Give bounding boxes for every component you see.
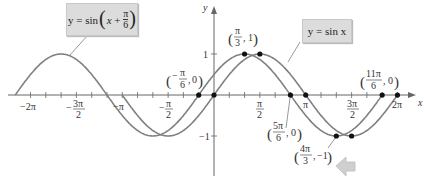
tick-label-pi: π <box>303 99 308 110</box>
point-label-pi-3: ( π 3 , 1 ) <box>228 25 258 48</box>
tick-label-neg-pi-2: − π 2 <box>159 98 173 120</box>
point-label-11pi-6: ( 11π 6 , 0 ) <box>360 68 399 91</box>
svg-text:3: 3 <box>235 37 240 48</box>
svg-text:): ) <box>327 149 332 166</box>
point-dot <box>257 51 262 56</box>
svg-text:0: 0 <box>291 127 296 138</box>
svg-text:4π: 4π <box>300 143 310 154</box>
svg-text:2: 2 <box>166 109 171 120</box>
svg-text:,: , <box>188 74 191 85</box>
tick-label-pi-2: π 2 <box>256 98 264 120</box>
svg-text:−: − <box>172 70 178 81</box>
tick-label-y-neg1: −1 <box>199 131 210 142</box>
svg-text:π: π <box>180 67 185 78</box>
svg-text:2: 2 <box>257 109 262 120</box>
svg-text:2: 2 <box>76 109 81 120</box>
svg-text:6: 6 <box>180 79 185 90</box>
point-dot <box>196 92 201 97</box>
point-dot <box>380 92 385 97</box>
point-dot <box>288 92 293 97</box>
svg-text:,: , <box>313 150 316 161</box>
point-dot <box>334 133 339 138</box>
svg-text:0: 0 <box>192 74 197 85</box>
svg-text:−: − <box>66 102 72 113</box>
point-dot <box>211 92 216 97</box>
y-axis-label: y <box>202 2 208 13</box>
leader-4pi3 <box>328 137 336 148</box>
svg-text:0: 0 <box>388 75 393 86</box>
svg-text:5π: 5π <box>273 120 283 131</box>
callout-sin-x: y = sin x <box>302 19 352 43</box>
svg-text:3: 3 <box>303 155 308 166</box>
tick-label-neg-2pi: −2π <box>20 101 36 112</box>
point-label-neg-pi-6: ( − π 6 , 0 ) <box>166 67 203 90</box>
svg-text:): ) <box>394 74 399 91</box>
sine-graph: x y −2π − 3π 2 −π − π 2 π 2 π 3π 2 2π 1 … <box>0 0 424 183</box>
svg-text:π: π <box>257 98 262 109</box>
tick-label-neg-3pi-2: − 3π 2 <box>66 98 85 120</box>
x-axis-label: x <box>417 97 423 108</box>
svg-text:(: ( <box>294 149 299 166</box>
svg-text:11π: 11π <box>366 68 381 79</box>
svg-text:): ) <box>297 126 302 143</box>
point-dot <box>242 51 247 56</box>
tick-label-neg-pi: −π <box>113 101 124 112</box>
svg-text:): ) <box>253 31 258 48</box>
svg-text:π: π <box>166 98 171 109</box>
svg-text:3π: 3π <box>73 98 83 109</box>
callout-leader-sin <box>288 42 300 62</box>
svg-text:): ) <box>198 73 203 90</box>
point-label-4pi-3: ( 4π 3 , −1 ) <box>294 143 332 166</box>
svg-text:,: , <box>383 75 386 86</box>
svg-text:,: , <box>243 32 246 43</box>
callout-leader-shifted <box>70 35 88 55</box>
svg-text:π: π <box>235 25 240 36</box>
svg-text:6: 6 <box>276 132 281 143</box>
svg-text:(: ( <box>360 74 365 91</box>
point-dot <box>395 92 400 97</box>
point-label-5pi-6: ( 5π 6 , 0 ) <box>267 120 302 143</box>
callout-shifted-prefix: y = sin <box>68 14 98 26</box>
svg-text:−: − <box>159 102 165 113</box>
callout-sin-x-plus-pi-over-6: y = sin ( x + π 6 ) <box>66 3 138 36</box>
tick-label-y-1: 1 <box>203 49 208 60</box>
svg-text:(: ( <box>267 126 272 143</box>
svg-text:(: ( <box>166 73 171 90</box>
svg-text:(: ( <box>228 31 233 48</box>
svg-text:2: 2 <box>350 109 355 120</box>
point-dot <box>303 92 308 97</box>
svg-text:,: , <box>286 127 289 138</box>
tick-label-3pi-2: 3π 2 <box>347 98 359 120</box>
tick-label-2pi: 2π <box>392 99 402 110</box>
svg-text:3π: 3π <box>347 98 357 109</box>
leader-5pi6 <box>286 98 290 128</box>
svg-text:6: 6 <box>371 80 376 91</box>
point-dot <box>349 133 354 138</box>
left-arrow-icon <box>336 157 355 176</box>
